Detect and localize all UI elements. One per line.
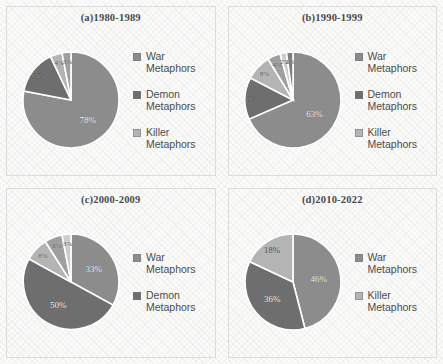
legend-label: Demon Metaphors [146, 88, 211, 113]
panel-a-title: (a)1980-1989 [7, 12, 215, 23]
panel-d-body: 46%36%18% War Metaphors Killer Metaphors [229, 207, 437, 357]
pie-chart-b: 63%13%8%4%2%2% [241, 48, 345, 152]
legend-marker-square-icon [133, 292, 141, 300]
chart-panel-c: (c)2000-2009 33%50%8%6%3% War Metaphors … [6, 188, 216, 358]
legend-b: War Metaphors Demon Metaphors Killer Met… [345, 50, 437, 151]
legend-item-killer: Killer Metaphors [355, 289, 433, 314]
legend-marker-square-icon [355, 292, 363, 300]
legend-item-war: War Metaphors [355, 251, 433, 276]
legend-c: War Metaphors Demon Metaphors [123, 251, 215, 314]
legend-item-war: War Metaphors [355, 50, 433, 75]
legend-label: Killer Metaphors [146, 126, 211, 151]
panel-d-title: (d)2010-2022 [229, 194, 437, 205]
pie-slice-label: 36% [264, 294, 281, 304]
legend-marker-square-icon [355, 129, 363, 137]
chart-panel-a: (a)1980-1989 78%15%4%3% War Metaphors De… [6, 6, 216, 176]
legend-item-killer: Killer Metaphors [355, 126, 433, 151]
pie-slice-label: 50% [50, 300, 67, 310]
legend-marker-square-icon [133, 254, 141, 262]
legend-item-war: War Metaphors [133, 50, 211, 75]
legend-label: War Metaphors [146, 251, 211, 276]
legend-a: War Metaphors Demon Metaphors Killer Met… [123, 50, 215, 151]
panel-b-body: 63%13%8%4%2%2% War Metaphors Demon Metap… [229, 25, 437, 175]
pie-slice-label: 33% [85, 264, 102, 274]
pie-slice-label: 18% [264, 245, 281, 255]
panel-a-body: 78%15%4%3% War Metaphors Demon Metaphors… [7, 25, 215, 175]
pie-slice-label: 63% [306, 109, 323, 119]
legend-label: Demon Metaphors [146, 289, 211, 314]
legend-item-demon: Demon Metaphors [133, 88, 211, 113]
panel-c-title: (c)2000-2009 [7, 194, 215, 205]
panel-b-title: (b)1990-1999 [229, 12, 437, 23]
pie-slice-label: 6% [52, 242, 61, 250]
legend-marker-square-icon [355, 53, 363, 61]
pie-chart-c: 33%50%8%6%3% [19, 230, 123, 334]
legend-label: War Metaphors [368, 50, 433, 75]
legend-label: Killer Metaphors [368, 126, 433, 151]
legend-label: War Metaphors [368, 251, 433, 276]
pie-svg [241, 230, 345, 334]
pie-slice-label: 15% [32, 71, 49, 81]
pie-slice-label: 3% [63, 58, 72, 66]
legend-marker-square-icon [133, 53, 141, 61]
legend-item-demon: Demon Metaphors [355, 88, 433, 113]
pie-chart-d: 46%36%18% [241, 230, 345, 334]
pie-slice-label: 3% [63, 240, 72, 248]
legend-marker-square-icon [133, 129, 141, 137]
pie-slice-label: 78% [80, 115, 97, 125]
legend-label: Demon Metaphors [368, 88, 433, 113]
legend-item-killer: Killer Metaphors [133, 126, 211, 151]
legend-item-demon: Demon Metaphors [133, 289, 211, 314]
pie-slice-label: 46% [310, 274, 327, 284]
pie-slice-label: 13% [246, 94, 263, 104]
pie-slice-label: 8% [260, 70, 269, 78]
chart-panel-b: (b)1990-1999 63%13%8%4%2%2% War Metaphor… [228, 6, 438, 176]
pie-slice-label: 8% [38, 252, 47, 260]
figure-canvas: (a)1980-1989 78%15%4%3% War Metaphors De… [0, 0, 443, 364]
panel-grid: (a)1980-1989 78%15%4%3% War Metaphors De… [0, 0, 443, 364]
legend-label: War Metaphors [146, 50, 211, 75]
legend-marker-square-icon [133, 91, 141, 99]
legend-item-war: War Metaphors [133, 251, 211, 276]
panel-c-body: 33%50%8%6%3% War Metaphors Demon Metapho… [7, 207, 215, 357]
pie-chart-a: 78%15%4%3% [19, 48, 123, 152]
pie-slice-label: 2% [285, 58, 294, 66]
legend-d: War Metaphors Killer Metaphors [345, 251, 437, 314]
legend-marker-square-icon [355, 91, 363, 99]
legend-label: Killer Metaphors [368, 289, 433, 314]
chart-panel-d: (d)2010-2022 46%36%18% War Metaphors Kil… [228, 188, 438, 358]
legend-marker-square-icon [355, 254, 363, 262]
